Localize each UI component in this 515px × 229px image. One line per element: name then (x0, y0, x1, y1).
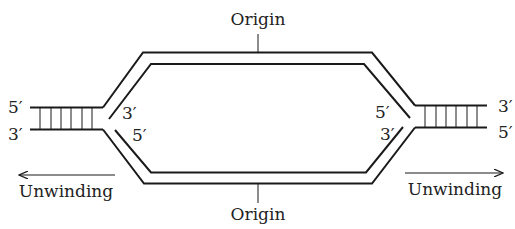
left-parental-top-end-label: 5′ (8, 97, 23, 117)
unwinding-label-left: Unwinding (19, 181, 113, 201)
origin-label-bottom: Origin (231, 204, 286, 224)
top-parental-strand (103, 53, 415, 108)
right-daughter-top-end-label: 5′ (375, 102, 390, 122)
left-base-pair-rungs (40, 108, 92, 129)
right-parental-bottom-end-label: 5′ (498, 122, 513, 142)
origin-label-top: Origin (231, 9, 286, 29)
right-parental-top-end-label: 3′ (498, 96, 513, 116)
right-daughter-bottom-end-label: 3′ (380, 124, 395, 144)
left-parental-bottom-end-label: 3′ (8, 124, 23, 144)
left-parental-duplex (30, 108, 103, 130)
right-base-pair-rungs (425, 106, 477, 127)
parental-strands-outer (103, 53, 415, 184)
bottom-parental-strand (103, 128, 415, 184)
daughter-strands-inner (109, 64, 410, 173)
unwinding-label-right: Unwinding (408, 179, 502, 199)
right-parental-duplex (415, 106, 487, 128)
left-daughter-bottom-end-label: 5′ (132, 125, 147, 145)
left-daughter-top-end-label: 3′ (122, 103, 137, 123)
top-daughter-strand (109, 64, 410, 119)
bottom-daughter-strand (115, 127, 403, 173)
replication-bubble-diagram: Origin Origin Unwinding Unwinding 5′ 3′ … (0, 0, 515, 229)
